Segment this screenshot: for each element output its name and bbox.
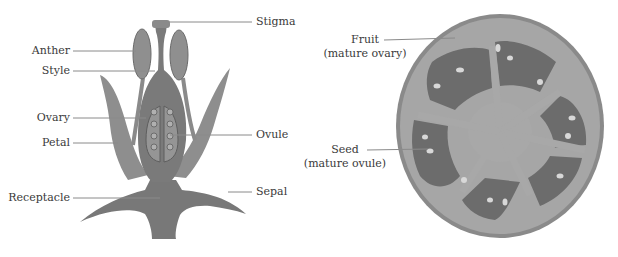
label-fruit: Fruit (320, 33, 410, 46)
label-anther: Anther (14, 44, 70, 57)
anther-right (170, 30, 188, 80)
flower-illustration (80, 20, 246, 239)
label-petal: Petal (14, 136, 70, 149)
illustration (0, 0, 618, 257)
label-ovule: Ovule (256, 128, 288, 141)
label-ovary: Ovary (14, 111, 70, 124)
diagram-canvas: Anther Style Ovary Petal Receptacle Stig… (0, 0, 618, 257)
label-style: Style (14, 64, 70, 77)
label-receptacle: Receptacle (0, 191, 70, 204)
label-stigma: Stigma (256, 15, 296, 28)
label-fruit-sub: (mature ovary) (320, 47, 410, 60)
label-seed-sub: (mature ovule) (300, 157, 390, 170)
tomato-illustration (396, 14, 604, 238)
label-seed: Seed (300, 143, 390, 156)
stigma (152, 20, 170, 28)
label-sepal: Sepal (256, 185, 287, 198)
sepal-receptacle (80, 180, 246, 239)
